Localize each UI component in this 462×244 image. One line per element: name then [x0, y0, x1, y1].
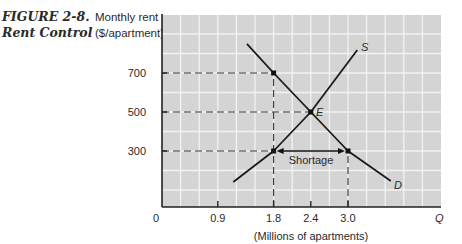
x-tick-label: 3.0	[340, 212, 355, 224]
supply-curve-label: S	[361, 41, 369, 53]
x-tick-label: 2.4	[303, 212, 318, 224]
demand-curve-label: D	[394, 179, 402, 191]
rent-control-chart: 00.91.82.43.0300500700 S D E Shortage Q …	[0, 0, 462, 244]
y-tick-label: 300	[128, 145, 146, 157]
y-tick-label: 500	[128, 106, 146, 118]
equilibrium-point	[308, 110, 313, 115]
shortage-label: Shortage	[289, 154, 334, 166]
marker-point	[271, 71, 276, 76]
y-tick-label: 700	[128, 67, 146, 79]
x-tick-label: 0.9	[210, 212, 225, 224]
x-axis-label: (Millions of apartments)	[254, 230, 368, 242]
x-tick-label: 1.8	[266, 212, 281, 224]
equilibrium-label: E	[316, 106, 324, 118]
marker-point	[271, 149, 276, 154]
x-tick-label: 0	[153, 212, 159, 224]
x-axis-symbol: Q	[435, 212, 444, 224]
marker-point	[346, 149, 351, 154]
